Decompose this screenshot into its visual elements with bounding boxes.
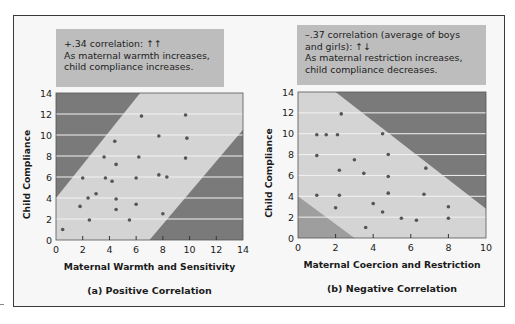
data-point bbox=[315, 154, 319, 158]
x-tick-label: 8 bbox=[445, 242, 451, 253]
y-axis-title: Child Compliance bbox=[263, 128, 274, 217]
y-tick-label: 6 bbox=[46, 172, 52, 183]
data-point bbox=[134, 203, 138, 207]
data-point bbox=[447, 216, 451, 220]
data-point bbox=[315, 193, 319, 197]
y-tick-label: 14 bbox=[40, 88, 52, 99]
data-point bbox=[157, 134, 161, 138]
y-tick-label: 0 bbox=[46, 235, 52, 246]
data-point bbox=[114, 163, 118, 167]
data-point bbox=[113, 140, 117, 144]
y-tick-label: 10 bbox=[40, 130, 52, 141]
chart-subtitle: (a) Positive Correlation bbox=[87, 285, 212, 296]
y-tick-label: 4 bbox=[46, 193, 52, 204]
scatter-chart-positive: 0246810121402468101214Maternal Warmth an… bbox=[21, 88, 249, 297]
y-tick-label: 8 bbox=[288, 149, 294, 160]
data-point bbox=[184, 113, 188, 117]
data-point bbox=[134, 176, 138, 180]
y-tick-label: 2 bbox=[46, 214, 52, 225]
data-point bbox=[81, 176, 85, 180]
data-point bbox=[157, 173, 161, 177]
data-point bbox=[415, 218, 419, 222]
x-tick-label: 4 bbox=[370, 242, 376, 253]
y-tick-label: 4 bbox=[288, 191, 294, 202]
x-tick-label: 4 bbox=[106, 244, 112, 255]
data-point bbox=[447, 205, 451, 209]
data-point bbox=[381, 210, 385, 214]
x-axis-title: Maternal Coercion and Restriction bbox=[303, 259, 480, 270]
data-point bbox=[364, 226, 368, 230]
data-point bbox=[324, 133, 328, 137]
data-point bbox=[386, 153, 390, 157]
data-point bbox=[104, 176, 108, 180]
data-point bbox=[386, 191, 390, 195]
data-point bbox=[185, 136, 189, 140]
x-tick-label: 10 bbox=[480, 242, 492, 253]
data-point bbox=[424, 166, 428, 170]
y-tick-label: 8 bbox=[46, 151, 52, 162]
y-axis-title: Child Compliance bbox=[21, 130, 32, 219]
scatter-chart-negative: 024681002468101214Maternal Coercion and … bbox=[263, 87, 492, 295]
data-point bbox=[184, 156, 188, 160]
data-point bbox=[102, 155, 106, 159]
x-tick-label: 0 bbox=[295, 242, 301, 253]
data-point bbox=[165, 175, 169, 179]
data-point bbox=[161, 212, 165, 216]
data-point bbox=[61, 228, 65, 232]
plot-area bbox=[56, 93, 243, 240]
chart-subtitle: (b) Negative Correlation bbox=[327, 283, 457, 294]
data-point bbox=[338, 168, 342, 172]
y-tick-label: 0 bbox=[288, 233, 294, 244]
data-point bbox=[386, 175, 390, 179]
x-tick-label: 8 bbox=[160, 244, 166, 255]
y-tick-label: 12 bbox=[40, 109, 52, 120]
y-tick-label: 6 bbox=[288, 170, 294, 181]
data-point bbox=[339, 112, 343, 116]
x-tick-label: 0 bbox=[53, 244, 59, 255]
data-point bbox=[128, 218, 132, 222]
x-tick-label: 6 bbox=[408, 242, 414, 253]
data-point bbox=[94, 192, 98, 196]
x-tick-label: 14 bbox=[237, 244, 249, 255]
data-point bbox=[88, 218, 92, 222]
data-point bbox=[400, 216, 404, 220]
data-point bbox=[334, 206, 338, 210]
data-point bbox=[315, 133, 319, 137]
data-point bbox=[371, 202, 375, 206]
data-point bbox=[422, 192, 426, 196]
x-tick-label: 10 bbox=[184, 244, 196, 255]
data-point bbox=[353, 158, 357, 162]
x-axis-title: Maternal Warmth and Sensitivity bbox=[64, 261, 235, 272]
y-tick-label: 2 bbox=[288, 212, 294, 223]
data-point bbox=[78, 205, 82, 209]
data-point bbox=[338, 193, 342, 197]
data-point bbox=[114, 197, 118, 201]
x-tick-label: 2 bbox=[333, 242, 339, 253]
data-point bbox=[381, 132, 385, 136]
data-point bbox=[140, 114, 144, 118]
data-point bbox=[110, 179, 114, 183]
y-tick-label: 12 bbox=[282, 107, 294, 118]
charts-canvas: 0246810121402468101214Maternal Warmth an… bbox=[0, 0, 515, 324]
y-tick-label: 14 bbox=[282, 87, 294, 98]
x-tick-label: 6 bbox=[133, 244, 139, 255]
data-point bbox=[114, 208, 118, 212]
y-tick-label: 10 bbox=[282, 128, 294, 139]
data-point bbox=[137, 155, 141, 159]
x-tick-label: 12 bbox=[210, 244, 222, 255]
data-point bbox=[362, 172, 366, 176]
data-point bbox=[336, 133, 340, 137]
data-point bbox=[86, 196, 90, 200]
x-tick-label: 2 bbox=[80, 244, 86, 255]
plot-area bbox=[298, 92, 486, 238]
